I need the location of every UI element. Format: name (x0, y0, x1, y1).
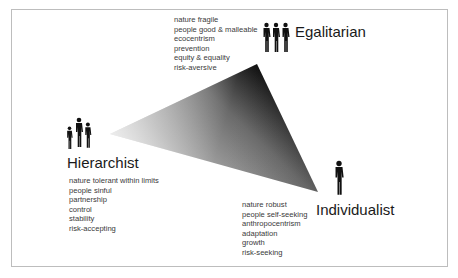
trait: risk-aversive (174, 63, 258, 73)
three-equal-people-icon (262, 22, 290, 54)
trait: prevention (174, 44, 258, 54)
individualist-label: Individualist (316, 201, 394, 218)
family-group-icon (66, 117, 94, 149)
trait: ecocentrism (174, 34, 258, 44)
trait: people self-seeking (242, 210, 307, 220)
hierarchist-traits: nature tolerant within limits people sin… (69, 176, 159, 234)
egalitarian-label: Egalitarian (295, 23, 366, 40)
hierarchist-label: Hierarchist (67, 154, 139, 171)
trait: nature robust (242, 200, 307, 210)
trait: risk-seeking (242, 248, 307, 258)
trait: nature fragile (174, 15, 258, 25)
trait: growth (242, 238, 307, 248)
trait: anthropocentrism (242, 219, 307, 229)
trait: equity & equality (174, 53, 258, 63)
individualist-traits: nature robust people self-seeking anthro… (242, 200, 307, 258)
trait: risk-accepting (69, 224, 159, 234)
trait: people good & malleable (174, 25, 258, 35)
single-person-icon (333, 160, 345, 196)
trait: adaptation (242, 229, 307, 239)
trait: stability (69, 214, 159, 224)
trait: partnership (69, 195, 159, 205)
trait: nature tolerant within limits (69, 176, 159, 186)
trait: people sinful (69, 186, 159, 196)
trait: control (69, 205, 159, 215)
egalitarian-traits: nature fragile people good & malleable e… (174, 15, 258, 73)
